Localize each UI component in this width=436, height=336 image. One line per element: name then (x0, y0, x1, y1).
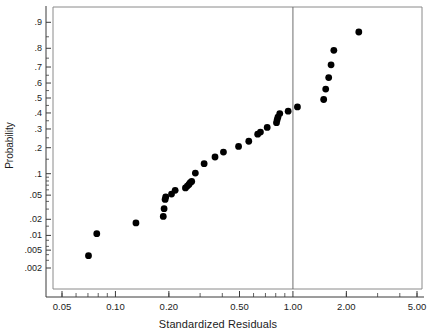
y-tick-label-9: .05 (0, 190, 42, 200)
y-tick-label-12: .005 (0, 245, 42, 255)
data-point (235, 143, 242, 150)
x-tick-label-1: 0.10 (106, 301, 125, 312)
data-point (161, 205, 168, 212)
data-point (172, 187, 179, 194)
data-point (162, 194, 169, 201)
x-tick-label-3: 0.50 (230, 301, 249, 312)
y-tick-label-10: .02 (0, 214, 42, 224)
data-point (160, 213, 167, 220)
x-tick-label-2: 0.20 (160, 301, 179, 312)
x-axis-title: Standardized Residuals (0, 318, 436, 330)
y-axis-title: Probability (4, 106, 15, 186)
x-tick-label-6: 5.00 (408, 301, 427, 312)
data-point (220, 149, 227, 156)
data-point (276, 110, 283, 117)
y-tick-label-13: .002 (0, 263, 42, 273)
y-tick-label-0: .9 (0, 17, 42, 27)
figure-background (0, 0, 436, 336)
data-point (325, 74, 332, 81)
y-tick-label-4: .5 (0, 93, 42, 103)
data-point (328, 61, 335, 68)
data-point (93, 230, 100, 237)
y-tick-label-2: .7 (0, 62, 42, 72)
data-point (201, 160, 208, 167)
data-point (133, 220, 140, 227)
probability-plot-figure: 0.050.100.200.501.002.005.00 .9.8.7.6.5.… (0, 0, 436, 336)
data-point (257, 129, 264, 136)
data-point (355, 29, 362, 36)
data-point (188, 178, 195, 185)
data-point (294, 104, 301, 111)
plot-canvas (0, 0, 436, 336)
y-tick-label-3: .6 (0, 78, 42, 88)
data-point (245, 138, 252, 145)
data-point (330, 47, 337, 54)
y-tick-label-1: .8 (0, 43, 42, 53)
data-point (285, 108, 292, 115)
data-point (85, 252, 92, 259)
x-tick-label-4: 1.00 (284, 301, 303, 312)
data-point (322, 86, 329, 93)
data-point (192, 170, 199, 177)
data-point (212, 154, 219, 161)
data-point (264, 124, 271, 131)
y-tick-label-11: .01 (0, 230, 42, 240)
data-point (320, 96, 327, 103)
x-tick-label-5: 2.00 (337, 301, 356, 312)
x-tick-label-0: 0.05 (53, 301, 72, 312)
